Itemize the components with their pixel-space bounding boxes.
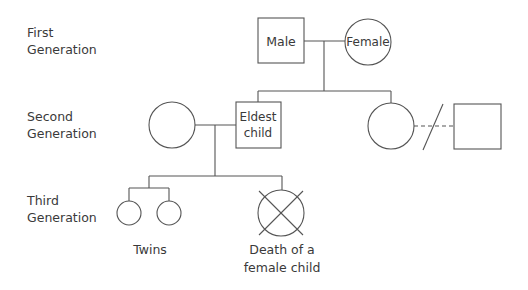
pedigree-chart: Male Female Eldest child Twins Death of … bbox=[0, 0, 528, 290]
eldest-label-line2: child bbox=[244, 126, 273, 140]
ex-spouse-square bbox=[454, 104, 501, 149]
eldest-label-line1: Eldest bbox=[240, 110, 277, 124]
female-label: Female bbox=[346, 35, 389, 49]
twin2-circle bbox=[157, 201, 181, 225]
male-label: Male bbox=[266, 34, 296, 49]
death-caption-line1: Death of a bbox=[249, 242, 314, 257]
spouse-circle bbox=[149, 102, 195, 148]
daughter-circle bbox=[368, 103, 414, 149]
twins-caption: Twins bbox=[132, 242, 167, 257]
twin1-circle bbox=[117, 201, 141, 225]
death-caption-line2: female child bbox=[244, 260, 321, 275]
eldest-child-square bbox=[236, 102, 281, 148]
divorce-slash bbox=[423, 104, 443, 150]
